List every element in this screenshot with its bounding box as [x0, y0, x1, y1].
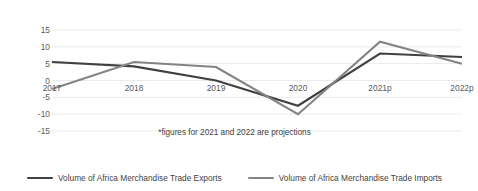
- series-lines: [52, 42, 462, 114]
- series-line-imports: [52, 42, 462, 114]
- gridlines: [52, 30, 462, 131]
- legend-swatch-exports: [27, 177, 53, 180]
- series-line-exports: [52, 54, 462, 106]
- chart-legend: Volume of Africa Merchandise Trade Expor…: [0, 168, 469, 188]
- legend-item-exports[interactable]: Volume of Africa Merchandise Trade Expor…: [27, 173, 222, 183]
- x-tick-label: 2021p: [356, 83, 404, 93]
- x-tick-label: 2017: [28, 83, 76, 93]
- legend-item-imports[interactable]: Volume of Africa Merchandise Trade Impor…: [248, 173, 442, 183]
- legend-swatch-imports: [248, 177, 274, 180]
- chart-footnote: *figures for 2021 and 2022 are projectio…: [0, 128, 469, 137]
- x-tick-label: 2020: [274, 83, 322, 93]
- legend-label-imports: Volume of Africa Merchandise Trade Impor…: [279, 173, 442, 183]
- x-tick-label: 2019: [192, 83, 240, 93]
- x-tick-label: 2022p: [438, 83, 478, 93]
- legend-label-exports: Volume of Africa Merchandise Trade Expor…: [58, 173, 222, 183]
- x-tick-label: 2018: [110, 83, 158, 93]
